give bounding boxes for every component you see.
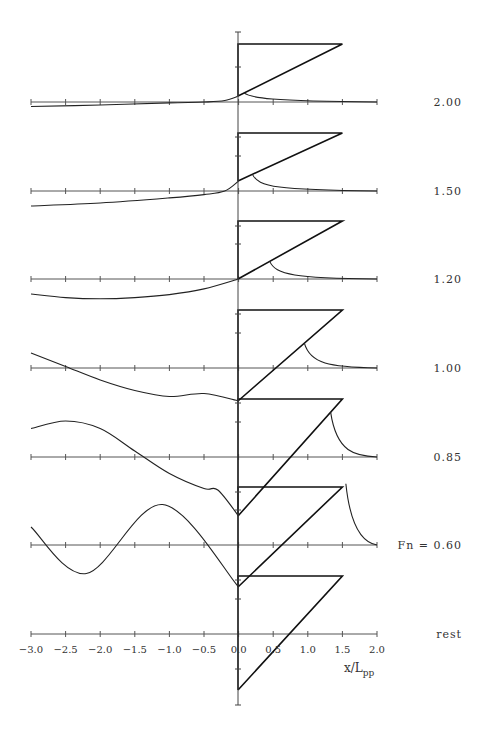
wake-decay-curve (346, 484, 377, 545)
fn-label: 1.50 (434, 185, 463, 198)
wave-profile-chart: 2.001.501.201.000.85Fn = 0.60rest −3.0−2… (0, 0, 485, 731)
hull-profile (238, 487, 342, 587)
wake-decay-curve (244, 93, 377, 102)
panel-fn0.60: Fn = 0.60 (31, 484, 462, 587)
hull-profile (238, 44, 342, 96)
panels: 2.001.501.201.000.85Fn = 0.60rest (31, 44, 462, 690)
panel-1.00: 1.00 (31, 310, 462, 401)
wake-decay-curve (270, 261, 377, 279)
x-tick-label: 0.0 (231, 644, 247, 655)
panel-rest: rest (31, 576, 462, 690)
fn-label: 0.85 (434, 451, 463, 464)
x-axis-label: x/Lpp (344, 661, 375, 678)
x-tick-label: 2.0 (369, 644, 385, 655)
hull-profile (238, 576, 342, 690)
wave-profile-curve (31, 353, 239, 401)
wake-decay-curve (252, 174, 377, 191)
hull-profile (238, 221, 342, 279)
x-tick-label: 1.5 (334, 644, 350, 655)
x-tick-labels: −3.0−2.5−2.0−1.5−1.0−0.50.00.51.01.52.0 (19, 644, 385, 655)
x-tick-label: −1.5 (123, 644, 147, 655)
x-tick-label: −0.5 (192, 644, 216, 655)
x-tick-label: 0.5 (265, 644, 281, 655)
panel-0.85: 0.85 (31, 399, 462, 516)
fn-label: rest (436, 628, 462, 641)
wave-profile-curve (31, 421, 239, 516)
x-tick-label: −2.0 (88, 644, 112, 655)
panel-1.20: 1.20 (31, 221, 462, 299)
panel-2.00: 2.00 (31, 44, 462, 109)
wake-decay-curve (304, 343, 377, 368)
hull-profile (238, 310, 342, 401)
wake-decay-curve (331, 412, 377, 457)
fn-label: 1.00 (434, 362, 463, 375)
x-tick-label: −3.0 (19, 644, 43, 655)
fn-label: 1.20 (434, 273, 463, 286)
x-tick-label: 1.0 (300, 644, 316, 655)
panel-1.50: 1.50 (31, 133, 462, 206)
hull-profile (238, 133, 342, 181)
fn-label: 2.00 (434, 96, 463, 109)
x-tick-label: −1.0 (157, 644, 181, 655)
fn-label: Fn = 0.60 (398, 539, 462, 552)
x-tick-label: −2.5 (53, 644, 77, 655)
